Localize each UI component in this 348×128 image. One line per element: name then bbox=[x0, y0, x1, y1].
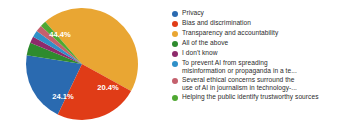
legend-item-helping-public-identify-trustworthy-sources[interactable]: Helping the public identify trustworthy … bbox=[172, 93, 348, 101]
legend-item-label: Privacy bbox=[182, 9, 204, 17]
pie-label-transparency: 44.4% bbox=[49, 30, 71, 39]
legend-swatch-icon bbox=[172, 41, 178, 47]
legend-item-label: To prevent AI from spreading misinformat… bbox=[182, 59, 297, 74]
legend-item-bias-and-discrimination[interactable]: Bias and discrimination bbox=[172, 19, 348, 27]
legend-swatch-icon bbox=[172, 21, 178, 27]
legend-swatch-icon bbox=[172, 61, 178, 67]
legend-item-label: Bias and discrimination bbox=[182, 19, 251, 27]
legend-item-label: All of the above bbox=[182, 39, 228, 47]
legend-item-label: Helping the public identify trustworthy … bbox=[182, 93, 319, 101]
legend-item-i-dont-know[interactable]: I don't know bbox=[172, 49, 348, 57]
legend-item-label: I don't know bbox=[182, 49, 218, 57]
pie-label-bias: 24.1% bbox=[52, 92, 74, 101]
legend-item-all-of-the-above[interactable]: All of the above bbox=[172, 39, 348, 47]
legend-swatch-icon bbox=[172, 51, 178, 57]
pie-label-privacy: 20.4% bbox=[97, 83, 119, 92]
legend-swatch-icon bbox=[172, 78, 178, 84]
legend-item-privacy[interactable]: Privacy bbox=[172, 9, 348, 17]
pie-chart-figure: 44.4% 20.4% 24.1% Privacy Bias and discr… bbox=[0, 0, 348, 128]
legend-swatch-icon bbox=[172, 95, 178, 101]
legend-item-label: Transparency and accountability bbox=[182, 29, 278, 37]
pie-chart-svg: 44.4% 20.4% 24.1% bbox=[16, 4, 156, 124]
legend-item-several-ethical-concerns[interactable]: Several ethical concerns surround the us… bbox=[172, 76, 348, 91]
legend-item-prevent-ai-misinformation[interactable]: To prevent AI from spreading misinformat… bbox=[172, 59, 348, 74]
legend-swatch-icon bbox=[172, 11, 178, 17]
pie-chart-plot-area: 44.4% 20.4% 24.1% bbox=[0, 0, 168, 128]
legend-item-label: Several ethical concerns surround the us… bbox=[182, 76, 297, 91]
legend-item-transparency-and-accountability[interactable]: Transparency and accountability bbox=[172, 29, 348, 37]
pie-chart-legend: Privacy Bias and discrimination Transpar… bbox=[168, 0, 348, 103]
legend-swatch-icon bbox=[172, 31, 178, 37]
